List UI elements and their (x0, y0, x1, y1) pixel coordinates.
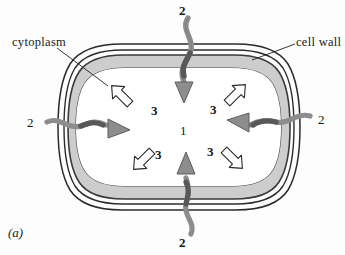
panel-label: (a) (8, 226, 23, 239)
marker-label-exchange-top-left: 3 (151, 104, 158, 117)
marker-label-influx-top: 2 (179, 4, 186, 17)
label-cytoplasm: cytoplasm (12, 36, 66, 49)
marker-label-exchange-bottom-left: 3 (155, 148, 162, 161)
label-cell-wall: cell wall (296, 36, 341, 49)
figure-panel-a: cytoplasm cell wall 2 2 2 2 1 3 3 3 3 (a… (0, 0, 345, 255)
marker-label-influx-left: 2 (27, 116, 34, 129)
marker-label-influx-right: 2 (318, 113, 325, 126)
marker-label-exchange-top-right: 3 (210, 103, 217, 116)
marker-label-center: 1 (180, 124, 187, 137)
marker-label-exchange-bottom-right: 3 (207, 145, 214, 158)
marker-label-influx-bottom: 2 (179, 236, 186, 249)
